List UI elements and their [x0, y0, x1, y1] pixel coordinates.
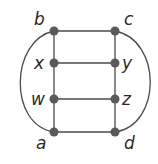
- node-x: [50, 59, 59, 68]
- curved-edge-c-d: [115, 31, 150, 132]
- node-label-d: d: [124, 133, 135, 153]
- node-label-z: z: [121, 89, 132, 109]
- node-a: [50, 128, 59, 137]
- curved-edge-b-a: [20, 31, 54, 132]
- graph-nodes: [50, 27, 120, 137]
- node-label-a: a: [36, 133, 46, 153]
- node-c: [111, 27, 120, 36]
- straight-edges: [54, 31, 115, 132]
- graph-diagram: bcxywzad: [0, 0, 158, 164]
- node-y: [111, 59, 120, 68]
- node-label-w: w: [31, 89, 45, 109]
- node-w: [50, 95, 59, 104]
- node-label-b: b: [34, 9, 45, 29]
- curved-edges: [20, 31, 150, 132]
- node-b: [50, 27, 59, 36]
- node-label-c: c: [124, 9, 134, 29]
- node-d: [111, 128, 120, 137]
- node-label-y: y: [121, 53, 133, 73]
- node-z: [111, 95, 120, 104]
- node-label-x: x: [33, 53, 45, 73]
